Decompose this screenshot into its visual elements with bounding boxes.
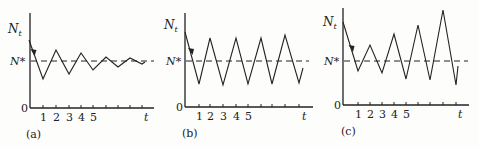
tick-label: 5 (90, 111, 97, 124)
panel-b: Nt N* 0 1 2 3 4 5 t (b) (163, 13, 313, 140)
tick-label: 2 (367, 108, 374, 121)
x-axis-label: t (144, 111, 149, 124)
arrowhead-icon (31, 49, 37, 56)
equilibrium-label: N* (9, 55, 26, 68)
population-curve (185, 32, 303, 85)
equilibrium-label: N* (165, 55, 182, 68)
panel-caption: (b) (182, 127, 198, 140)
tick-label: 1 (40, 111, 47, 124)
origin-label: 0 (21, 102, 28, 115)
y-axis-label: Nt (163, 18, 179, 34)
panel-a: Nt N* 0 1 2 3 4 5 t (a) (7, 13, 154, 141)
panel-caption: (c) (341, 125, 356, 138)
tick-label: 4 (233, 110, 240, 123)
population-curve (343, 10, 458, 85)
tick-label: 3 (379, 108, 386, 121)
x-axis-label: t (302, 110, 307, 123)
tick-label: 2 (53, 111, 60, 124)
population-curve (29, 40, 145, 79)
figure-canvas: Nt N* 0 1 2 3 4 5 t (a) Nt N* 0 1 2 (0, 0, 479, 148)
origin-label: 0 (334, 99, 341, 112)
tick-label: 4 (391, 108, 398, 121)
tick-label: 1 (355, 108, 362, 121)
tick-label: 5 (403, 108, 410, 121)
tick-label: 3 (66, 111, 73, 124)
panel-caption: (a) (26, 128, 41, 141)
tick-label: 2 (207, 110, 214, 123)
y-axis-label: Nt (322, 15, 338, 31)
origin-label: 0 (176, 101, 183, 114)
tick-label: 5 (245, 110, 252, 123)
tick-label: 1 (196, 110, 203, 123)
tick-label: 3 (220, 110, 227, 123)
y-axis-label: Nt (7, 22, 23, 38)
equilibrium-label: N* (323, 55, 340, 68)
tick-label: 4 (78, 111, 85, 124)
x-axis-label: t (458, 108, 463, 121)
panel-c: Nt N* 0 1 2 3 4 5 t (c) (322, 8, 469, 138)
